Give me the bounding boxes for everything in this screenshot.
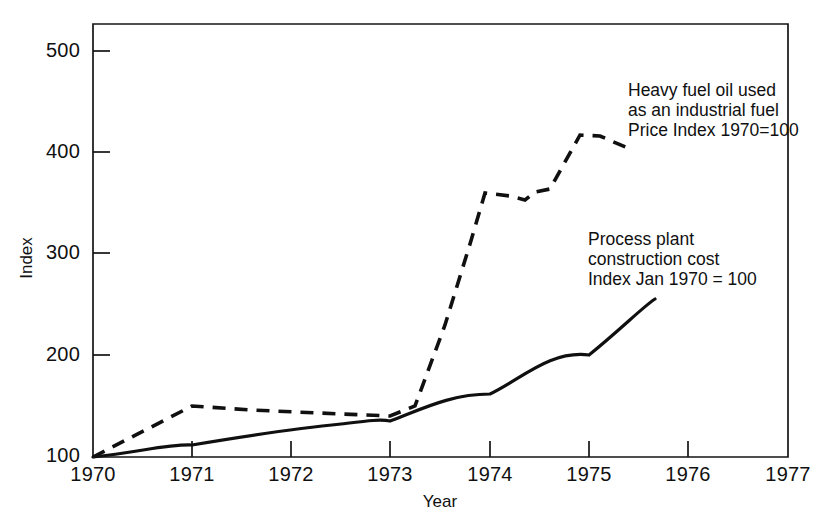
annotation-heavy-fuel-oil-line-1: Heavy fuel oil used	[628, 80, 799, 100]
xtick-label-1974: 1974	[450, 463, 530, 486]
series-process-plant	[93, 299, 655, 457]
series-heavy-fuel-oil	[93, 135, 630, 457]
xtick-label-1970: 1970	[53, 463, 133, 486]
annotation-process-plant: Process plant construction cost Index Ja…	[588, 229, 757, 289]
y-axis-ticks	[93, 51, 110, 355]
xtick-label-1976: 1976	[648, 463, 728, 486]
xtick-label-1975: 1975	[549, 463, 629, 486]
xtick-label-1977: 1977	[748, 463, 828, 486]
annotation-process-plant-line-3: Index Jan 1970 = 100	[588, 269, 757, 289]
annotation-heavy-fuel-oil-line-3: Price Index 1970=100	[628, 120, 799, 140]
ytick-label-400: 400	[18, 140, 80, 163]
ytick-label-200: 200	[18, 343, 80, 366]
xtick-label-1973: 1973	[350, 463, 430, 486]
y-axis-title: Index	[17, 223, 37, 293]
x-axis-ticks	[192, 441, 688, 457]
ytick-label-500: 500	[18, 39, 80, 62]
annotation-process-plant-line-2: construction cost	[588, 249, 757, 269]
xtick-label-1972: 1972	[251, 463, 331, 486]
x-axis-title: Year	[400, 492, 480, 512]
chart-figure: 500 400 300 200 100 1970 1971 1972 1973 …	[0, 0, 839, 530]
annotation-heavy-fuel-oil: Heavy fuel oil used as an industrial fue…	[628, 80, 799, 140]
annotation-heavy-fuel-oil-line-2: as an industrial fuel	[628, 100, 799, 120]
annotation-process-plant-line-1: Process plant	[588, 229, 757, 249]
xtick-label-1971: 1971	[152, 463, 232, 486]
